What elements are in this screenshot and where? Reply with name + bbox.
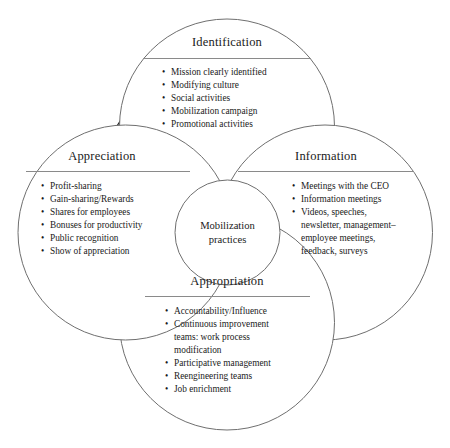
list-item: Meetings with the CEO — [292, 180, 440, 193]
list-item: Mobilization campaign — [162, 105, 337, 118]
node-identification-title: Identification — [117, 35, 337, 50]
node-appreciation-title: Appreciation — [0, 149, 212, 164]
center-hub-label-line2: practices — [209, 234, 247, 245]
center-hub-label: Mobilization practices — [200, 219, 255, 247]
node-identification-divider — [143, 58, 311, 59]
node-information-title: Information — [216, 149, 436, 164]
list-item: Modifying culture — [162, 79, 337, 92]
node-identification-list: Mission clearly identified Modifying cul… — [162, 66, 337, 131]
list-item: Information meetings — [292, 193, 440, 206]
list-item: Social activities — [162, 92, 337, 105]
list-item: Participative management — [165, 357, 325, 370]
node-information-divider — [238, 171, 414, 172]
list-item: Mission clearly identified — [162, 66, 337, 79]
node-appreciation-divider — [26, 171, 190, 172]
center-hub-label-line1: Mobilization — [200, 220, 255, 231]
node-center-hub[interactable]: Mobilization practices — [175, 180, 280, 285]
list-item: Reengineering teams — [165, 370, 325, 383]
list-item-continuation: modification — [165, 344, 325, 357]
list-item: Job enrichment — [165, 383, 325, 396]
mobilization-practices-diagram: Identification Mission clearly identifie… — [0, 0, 450, 448]
